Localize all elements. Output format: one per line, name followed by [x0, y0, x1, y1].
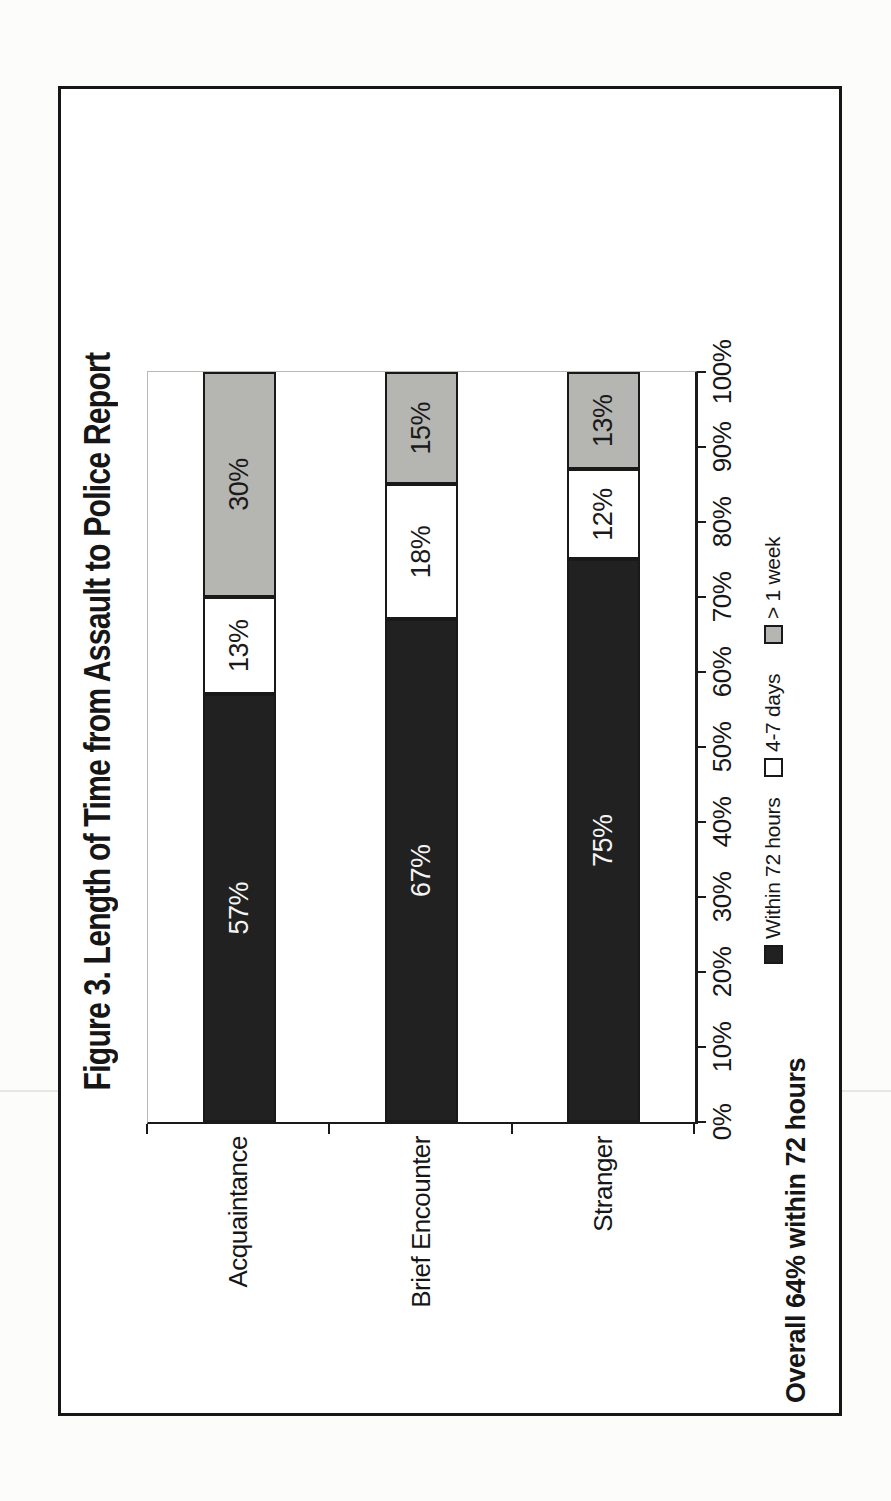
category-axis-tick: [511, 1124, 513, 1134]
value-axis-tick: [697, 446, 706, 448]
category-label: Acquaintance: [223, 1136, 254, 1346]
segment-label: 15%: [406, 402, 437, 455]
segment-4-7-days: 18%: [385, 485, 458, 620]
legend-item-within-72-hours: Within 72 hours: [761, 798, 785, 964]
value-axis-tick: [697, 596, 706, 598]
value-axis-tick: [697, 521, 706, 523]
figure-frame: Figure 3. Length of Time from Assault to…: [58, 86, 842, 1416]
value-axis-tick: [697, 1046, 706, 1048]
segment-label: 18%: [406, 526, 437, 579]
legend-swatch-icon: [764, 758, 783, 777]
value-axis-tick: [697, 746, 706, 748]
legend-label: > 1 week: [761, 537, 785, 619]
value-axis-label: 100%: [707, 327, 738, 417]
segment-within-72-hours: 57%: [203, 695, 276, 1123]
category-axis-tick: [693, 1124, 695, 1134]
segment--1-week: 15%: [385, 372, 458, 485]
plot-area: 57%13%30%67%18%15%75%12%13%: [147, 371, 698, 1124]
segment-4-7-days: 13%: [203, 597, 276, 695]
value-axis-tick: [697, 971, 706, 973]
segment-within-72-hours: 67%: [385, 620, 458, 1123]
value-axis-tick: [697, 671, 706, 673]
segment-label: 12%: [588, 488, 619, 541]
segment-label: 30%: [224, 458, 255, 511]
segment--1-week: 13%: [567, 372, 640, 470]
category-label: Brief Encounter: [406, 1136, 437, 1346]
legend-label: 4-7 days: [761, 674, 785, 752]
value-axis-tick: [697, 821, 706, 823]
segment-label: 75%: [588, 814, 619, 867]
segment-4-7-days: 12%: [567, 470, 640, 560]
segment-label: 13%: [588, 394, 619, 447]
legend-label: Within 72 hours: [761, 798, 785, 939]
segment-label: 57%: [224, 882, 255, 935]
segment-label: 67%: [406, 844, 437, 897]
segment-within-72-hours: 75%: [567, 560, 640, 1123]
bar-brief-encounter: 67%18%15%: [385, 372, 458, 1122]
category-axis-tick: [328, 1124, 330, 1134]
bar-acquaintance: 57%13%30%: [203, 372, 276, 1122]
value-axis-tick: [697, 371, 706, 373]
chart-title: Figure 3. Length of Time from Assault to…: [77, 195, 119, 1307]
legend-swatch-icon: [764, 945, 783, 964]
segment--1-week: 30%: [203, 372, 276, 597]
legend-swatch-icon: [764, 625, 783, 644]
legend-item--1-week: > 1 week: [761, 537, 785, 644]
overall-note: Overall 64% within 72 hours: [781, 1058, 812, 1403]
category-label: Stranger: [588, 1136, 619, 1346]
category-axis-tick: [146, 1124, 148, 1134]
value-axis-tick: [697, 896, 706, 898]
segment-label: 13%: [224, 619, 255, 672]
scanned-page: Figure 3. Length of Time from Assault to…: [0, 0, 891, 1501]
value-axis-tick: [697, 1121, 706, 1123]
bar-stranger: 75%12%13%: [567, 372, 640, 1122]
legend-item-4-7-days: 4-7 days: [761, 674, 785, 777]
